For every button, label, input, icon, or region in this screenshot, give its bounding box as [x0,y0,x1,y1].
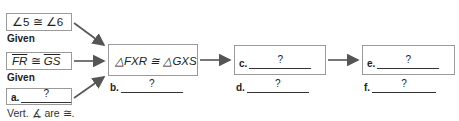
blank-c-label: c. [239,58,247,69]
given-segment-statement: FR ≅ GS [12,54,60,68]
step-e-box: e. ? [362,45,455,75]
blank-d-input[interactable]: ? [247,80,309,93]
triangle-congruence-statement: △FXR ≅ △GXS [115,54,197,68]
given-angle-reason: Given [7,33,35,44]
triangle-congruence-box: △FXR ≅ △GXS [108,44,198,76]
blank-b-input[interactable]: ? [121,80,183,93]
blank-a-box: a. ? [6,88,72,105]
blank-e-label: e. [367,58,375,69]
blank-c-input[interactable]: ? [249,56,311,69]
vertical-angles-reason: Vert. ∡ are ≅. [7,107,74,119]
blank-f-label: f. [364,82,370,93]
blank-d-label: d. [236,82,245,93]
segment-fr: FR [12,55,27,67]
blank-e-input[interactable]: ? [377,56,439,69]
blank-a-label: a. [11,92,19,103]
blank-b-placeholder: ? [121,78,183,89]
blank-d-placeholder: ? [247,78,309,89]
blank-b-label: b. [110,82,119,93]
blank-c-placeholder: ? [249,54,311,65]
step-c-box: c. ? [234,45,326,75]
blank-e-placeholder: ? [377,54,439,65]
segment-gs: GS [44,55,61,67]
given-segment-reason: Given [7,72,35,83]
blank-f-input[interactable]: ? [372,80,436,93]
given-segment-box: FR ≅ GS [6,52,72,70]
blank-f-placeholder: ? [372,78,436,89]
given-angle-box: ∠5 ≅ ∠6 [6,13,72,31]
congruent-symbol: ≅ [27,55,43,67]
given-angle-statement: ∠5 ≅ ∠6 [12,15,63,29]
blank-a-input[interactable]: ? [21,90,71,103]
blank-a-placeholder: ? [21,88,71,99]
